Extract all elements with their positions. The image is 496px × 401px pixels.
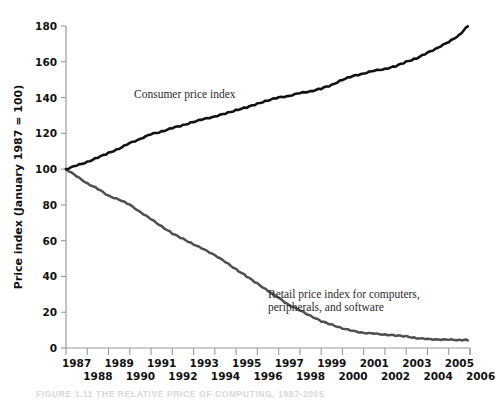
- annotation-retail-price-index-line2: peripherals, and software: [268, 301, 384, 314]
- x-tick-marks: [66, 348, 470, 355]
- y-tick-label: 80: [42, 199, 57, 211]
- x-tick-label-even: 1992: [168, 370, 197, 382]
- annotation-retail-price-index-line1: Retail price index for computers,: [268, 288, 420, 301]
- y-tick-label: 160: [35, 56, 57, 68]
- x-tick-label-odd: 2003: [402, 357, 431, 369]
- x-tick-label-even: 2004: [423, 370, 452, 382]
- y-tick-label: 40: [42, 270, 57, 282]
- annotation-consumer-price-index: Consumer price index: [134, 88, 236, 101]
- y-tick-labels: 020406080100120140160180: [35, 20, 57, 354]
- y-tick-label: 60: [42, 235, 57, 247]
- x-tick-label-even: 1994: [211, 370, 240, 382]
- x-tick-label-even: 2000: [338, 370, 367, 382]
- y-axis-title: Price index (January 1987 = 100): [12, 85, 25, 289]
- x-tick-label-odd: 1999: [317, 357, 346, 369]
- x-tick-label-even: 1988: [83, 370, 112, 382]
- x-axis: 1987198919911993199519971999200120032005…: [62, 348, 495, 382]
- figure-caption: FIGURE 1.11 THE RELATIVE PRICE OF COMPUT…: [36, 389, 324, 399]
- figure-container: 020406080100120140160180 198719891991199…: [0, 0, 496, 401]
- x-tick-label-odd: 1987: [62, 357, 91, 369]
- x-tick-label-odd: 1993: [190, 357, 219, 369]
- y-tick-label: 120: [35, 127, 57, 139]
- y-tick-label: 100: [35, 163, 57, 175]
- x-tick-label-even: 2006: [466, 370, 495, 382]
- y-axis: 020406080100120140160180: [35, 20, 66, 354]
- series-line-consumer-price-index: [66, 26, 468, 169]
- x-tick-label-even: 1990: [126, 370, 155, 382]
- x-tick-label-even: 2002: [381, 370, 410, 382]
- x-tick-label-odd: 2001: [360, 357, 389, 369]
- x-tick-label-even: 1998: [296, 370, 325, 382]
- x-tick-label-odd: 1991: [147, 357, 176, 369]
- series-line-retail-price-index-computers: [66, 169, 468, 340]
- x-tick-label-odd: 2005: [445, 357, 474, 369]
- x-tick-label-odd: 1995: [232, 357, 261, 369]
- y-tick-label: 20: [42, 306, 57, 318]
- y-tick-label: 140: [35, 92, 57, 104]
- y-tick-label: 0: [50, 342, 57, 354]
- x-tick-labels-odd-years: 1987198919911993199519971999200120032005: [62, 357, 474, 369]
- x-tick-label-even: 1996: [253, 370, 282, 382]
- x-tick-labels-even-years: 1988199019921994199619982000200220042006: [83, 370, 495, 382]
- price-index-line-chart: 020406080100120140160180 198719891991199…: [0, 0, 496, 401]
- y-tick-marks: [61, 26, 66, 348]
- y-tick-label: 180: [35, 20, 57, 32]
- x-tick-label-odd: 1989: [105, 357, 134, 369]
- x-tick-label-odd: 1997: [275, 357, 304, 369]
